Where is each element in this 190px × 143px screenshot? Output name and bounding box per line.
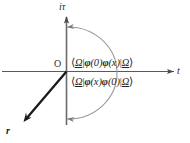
complex-time-plane-figure: iτ t r O ⟨Ω|φ(0)φ(x)|Ω⟩ ⟨Ω|φ(x)φ(0)|Ω⟩	[0, 0, 190, 143]
upper-arg-2: (x)	[108, 57, 119, 68]
wick-rotation-arc	[67, 24, 117, 122]
r-vector-label: r	[6, 126, 10, 136]
upper-arg-1: (0)	[90, 57, 102, 68]
vertical-axis-label: iτ	[59, 2, 65, 12]
vertical-axis	[64, 16, 69, 125]
horizontal-axis-label: t	[177, 66, 180, 76]
lower-ket-bracket: ⟩	[129, 76, 133, 87]
lower-arg-2: (0)	[108, 76, 120, 87]
horizontal-axis	[2, 69, 174, 74]
r-vector-arrow	[24, 72, 67, 123]
upper-wightman-function-label: ⟨Ω|φ(0)φ(x)|Ω⟩	[71, 58, 133, 69]
diagram-canvas	[0, 0, 190, 143]
upper-ket-bracket: ⟩	[129, 57, 133, 68]
origin-label: O	[54, 59, 61, 69]
lower-arg-1: (x)	[90, 76, 101, 87]
lower-wightman-function-label: ⟨Ω|φ(x)φ(0)|Ω⟩	[71, 77, 133, 88]
